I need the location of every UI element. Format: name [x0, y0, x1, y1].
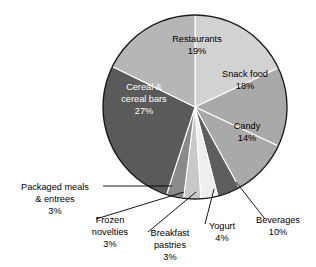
label-restaurants-name: Restaurants — [172, 34, 222, 44]
callout-breakfast-pastries-line2: pastries — [154, 240, 187, 250]
callout-breakfast-pastries-value: 3% — [163, 252, 176, 262]
callout-breakfast-pastries-line1: Breakfast — [151, 228, 190, 238]
leader-beverages — [236, 182, 265, 219]
callout-packaged-meals-line2: & entrees — [35, 194, 75, 204]
label-restaurants-value: 19% — [188, 46, 206, 56]
callout-frozen-novelties: Frozen novelties 3% — [92, 215, 129, 249]
callout-packaged-meals: Packaged meals & entrees 3% — [21, 182, 89, 216]
callout-beverages-value: 10% — [269, 227, 287, 237]
label-cereal-value: 27% — [135, 106, 153, 116]
label-cereal-name-line1: Cereal & — [126, 82, 162, 92]
label-snack-food-name: Snack food — [222, 69, 268, 79]
callout-beverages: Beverages 10% — [256, 215, 300, 237]
callout-breakfast-pastries: Breakfast pastries 3% — [151, 228, 190, 262]
label-candy-name: Candy — [234, 121, 261, 131]
callout-frozen-novelties-line1: Frozen — [96, 215, 125, 225]
callout-yogurt-name: Yogurt — [209, 221, 236, 231]
label-candy-value: 14% — [238, 133, 256, 143]
callout-frozen-novelties-value: 3% — [103, 239, 116, 249]
pie-chart-figure: Restaurants 19% Snack food 18% Candy 14%… — [0, 0, 316, 267]
callout-yogurt-value: 4% — [215, 233, 228, 243]
pie-chart-svg: Restaurants 19% Snack food 18% Candy 14%… — [0, 0, 316, 267]
label-cereal-name-line2: cereal bars — [121, 94, 167, 104]
callout-packaged-meals-value: 3% — [48, 206, 61, 216]
label-snack-food-value: 18% — [236, 81, 254, 91]
leader-breakfast-pastries — [148, 192, 196, 232]
callout-frozen-novelties-line2: novelties — [92, 227, 129, 237]
callout-beverages-name: Beverages — [256, 215, 300, 225]
callout-packaged-meals-line1: Packaged meals — [21, 182, 89, 192]
callout-yogurt: Yogurt 4% — [209, 221, 236, 243]
